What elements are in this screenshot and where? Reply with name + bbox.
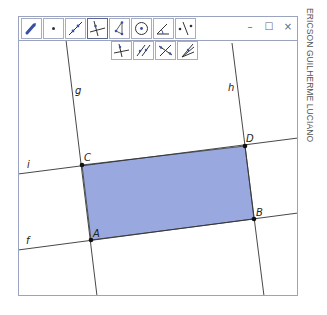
author-credit: ERICSON GUILHERME LUCIANO	[302, 8, 316, 178]
point-D[interactable]	[243, 144, 248, 149]
rectangle-abdc[interactable]	[82, 146, 254, 240]
point-label-B: B	[256, 207, 263, 218]
line-label-g: g	[75, 85, 81, 96]
line-label-h: h	[228, 82, 234, 93]
point-label-D: D	[246, 133, 254, 144]
line-label-i: i	[27, 159, 30, 170]
author-name: ERICSON GUILHERME LUCIANO	[305, 8, 315, 142]
point-label-A: A	[92, 228, 100, 239]
line-label-f: f	[26, 235, 31, 246]
point-C[interactable]	[80, 163, 85, 168]
point-label-C: C	[84, 152, 91, 163]
geometry-canvas[interactable]: ghif ABCD	[0, 0, 327, 315]
